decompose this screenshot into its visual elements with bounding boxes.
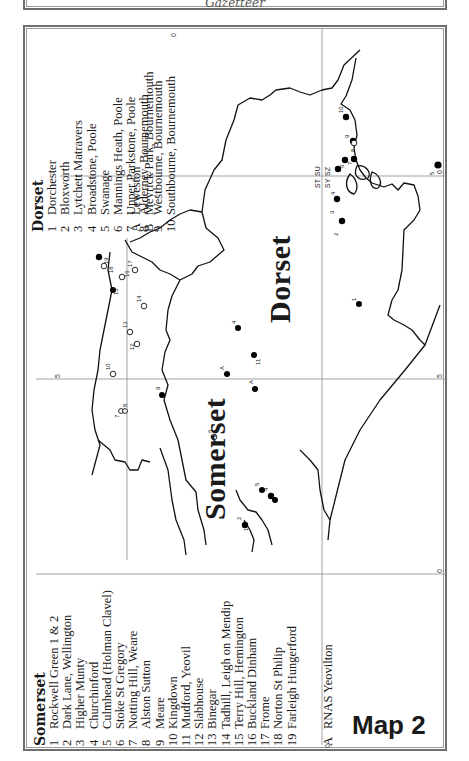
svg-text:2: 2 xyxy=(236,516,242,520)
svg-text:A: A xyxy=(248,380,254,384)
dorset-legend-list: 1Dorchester 2Bloxworth 3Lytchett Matrave… xyxy=(46,76,178,232)
svg-text:11: 11 xyxy=(255,358,261,365)
svg-text:1: 1 xyxy=(351,297,357,301)
grid-label-right-bottom: 0 xyxy=(436,569,443,573)
svg-text:5: 5 xyxy=(254,482,260,486)
somerset-legend-list: 1Rockwell Green 1 & 2 2Dark Lane, Wellin… xyxy=(48,590,299,746)
dorset-legend-title: Dorset xyxy=(30,76,46,232)
county-label-somerset: Somerset xyxy=(198,398,232,520)
svg-text:3: 3 xyxy=(329,210,335,214)
svg-text:9: 9 xyxy=(155,386,161,390)
grid-label-left: 5 xyxy=(54,374,61,378)
svg-text:2: 2 xyxy=(333,232,339,236)
svg-text:4: 4 xyxy=(330,191,336,195)
svg-text:12: 12 xyxy=(129,343,135,350)
svg-text:7: 7 xyxy=(347,161,353,165)
grid-square-sz: SZ xyxy=(324,166,331,176)
grid-square-sy: SY xyxy=(324,178,331,188)
svg-text:18: 18 xyxy=(108,266,114,273)
svg-text:4: 4 xyxy=(263,487,269,491)
svg-text:14: 14 xyxy=(136,295,142,302)
grid-label-right-lower: 5 xyxy=(436,374,443,378)
svg-text:9: 9 xyxy=(344,134,350,138)
somerset-legend-title: Somerset xyxy=(32,590,48,746)
legend-item: 19Farleigh Hungerford xyxy=(286,590,299,746)
svg-text:7: 7 xyxy=(114,414,120,418)
legend-item: 10Southbourne, Bournemouth xyxy=(165,76,178,232)
svg-text:13: 13 xyxy=(122,321,128,328)
legend-item: BMeyrick Park, Bournemouth xyxy=(143,72,156,232)
svg-text:A: A xyxy=(219,366,225,370)
svg-text:16: 16 xyxy=(124,270,130,277)
svg-text:8: 8 xyxy=(350,148,356,152)
svg-text:17: 17 xyxy=(127,260,133,267)
svg-text:4: 4 xyxy=(231,320,237,324)
svg-text:10: 10 xyxy=(105,363,111,370)
svg-text:6: 6 xyxy=(339,164,345,168)
grid-label-top: 0 xyxy=(170,33,177,37)
svg-text:19: 19 xyxy=(103,257,109,264)
legend-item: ARNAS Yeovilton xyxy=(322,644,335,746)
svg-text:15: 15 xyxy=(113,288,119,295)
county-label-dorset: Dorset xyxy=(263,235,297,323)
svg-text:5: 5 xyxy=(429,171,435,175)
grid-square-su: SU xyxy=(314,166,321,176)
grid-square-st: ST xyxy=(314,178,321,188)
somerset-legend: Somerset 1Rockwell Green 1 & 2 2Dark Lan… xyxy=(32,590,299,746)
dorset-legend-extra: ALeweston BMeyrick Park, Bournemouth xyxy=(130,72,156,232)
svg-text:10: 10 xyxy=(338,106,344,113)
grid-label-right-upper: 0 xyxy=(436,170,443,174)
somerset-legend-extra: ARNAS Yeovilton xyxy=(322,644,335,746)
map-title: Map 2 xyxy=(352,710,426,741)
